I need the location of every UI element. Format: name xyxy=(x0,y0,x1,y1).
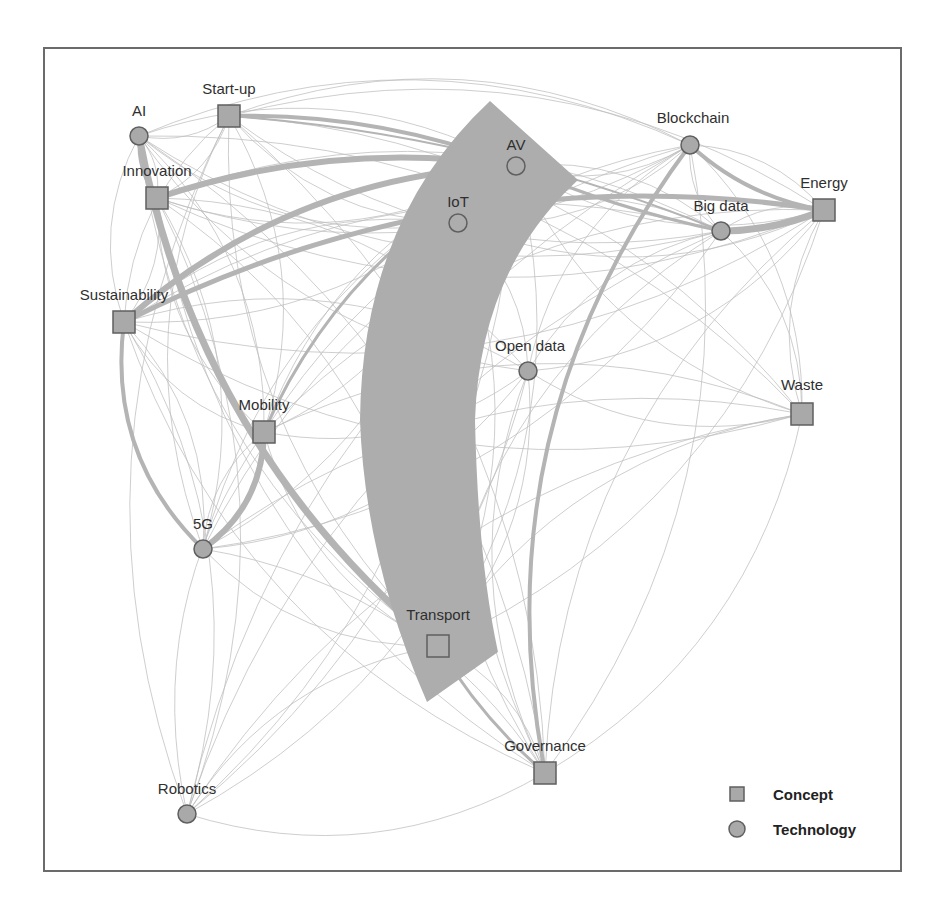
technology-circle-icon xyxy=(519,362,537,380)
edge xyxy=(545,414,802,773)
concept-square-icon xyxy=(113,311,135,333)
concept-square-icon xyxy=(534,762,556,784)
technology-circle-icon xyxy=(712,222,730,240)
node-label: Big data xyxy=(693,197,749,214)
node-label: 5G xyxy=(193,515,213,532)
node-label: Open data xyxy=(495,337,566,354)
edge xyxy=(187,646,438,814)
node-ai[interactable]: AI xyxy=(130,102,148,145)
node-label: Governance xyxy=(504,737,586,754)
network-diagram: AIStart-upInnovationSustainabilityMobili… xyxy=(0,0,942,914)
legend-concept-label: Concept xyxy=(773,786,833,803)
node-5g[interactable]: 5G xyxy=(193,515,213,558)
edge xyxy=(545,210,824,773)
edge xyxy=(157,198,241,814)
concept-square-icon xyxy=(813,199,835,221)
concept-square-icon xyxy=(146,187,168,209)
technology-circle-icon xyxy=(130,127,148,145)
node-label: Innovation xyxy=(122,162,191,179)
legend-circle-icon xyxy=(729,821,745,837)
node-label: Blockchain xyxy=(657,109,730,126)
node-label: Waste xyxy=(781,376,823,393)
node-label: Start-up xyxy=(202,80,255,97)
concept-square-icon xyxy=(218,105,240,127)
edge-strong xyxy=(121,322,203,549)
concept-square-icon xyxy=(791,403,813,425)
node-label: AV xyxy=(507,136,526,153)
node-start-up[interactable]: Start-up xyxy=(202,80,255,127)
edge xyxy=(203,398,802,549)
legend-technology-label: Technology xyxy=(773,821,857,838)
node-innovation[interactable]: Innovation xyxy=(122,162,191,209)
node-label: Sustainability xyxy=(80,286,169,303)
node-robotics[interactable]: Robotics xyxy=(158,780,216,823)
node-label: Mobility xyxy=(239,396,290,413)
node-label: Energy xyxy=(800,174,848,191)
node-label: AI xyxy=(132,102,146,119)
node-label: Robotics xyxy=(158,780,216,797)
node-label: Transport xyxy=(406,606,470,623)
network-svg: AIStart-upInnovationSustainabilityMobili… xyxy=(0,0,942,914)
technology-circle-icon xyxy=(681,136,699,154)
legend: Concept Technology xyxy=(729,786,857,838)
technology-circle-icon xyxy=(194,540,212,558)
node-label: IoT xyxy=(447,193,469,210)
concept-square-icon xyxy=(253,421,275,443)
edge xyxy=(545,145,706,773)
legend-square-icon xyxy=(730,787,744,801)
technology-circle-icon xyxy=(178,805,196,823)
edge xyxy=(264,209,824,432)
